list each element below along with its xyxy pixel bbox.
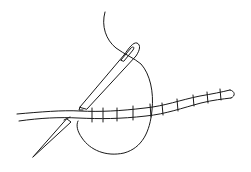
needle-thread-drawing (0, 0, 251, 172)
thread-icon (77, 12, 152, 154)
stitches-icon (92, 89, 221, 122)
sewing-needle-icon (79, 43, 140, 110)
cord-icon (17, 90, 234, 121)
illustration-canvas: needle and thread whipping stitches arou… (0, 0, 251, 172)
needle-point-icon (33, 117, 71, 157)
